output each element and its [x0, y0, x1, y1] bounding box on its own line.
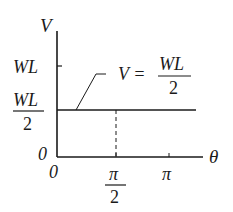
- annotation-lhs: V =: [118, 64, 145, 84]
- y-tick-label-half-den: 2: [23, 114, 32, 134]
- y-axis-label: V: [40, 15, 54, 36]
- x-axis-label: θ: [209, 146, 218, 167]
- y-zero-label: 0: [38, 144, 47, 164]
- annotation-den: 2: [169, 78, 178, 98]
- y-tick-label-half-num: WL: [13, 90, 38, 110]
- chart-canvas: V θ WL WL 2 0 0 π 2 π V = WL 2: [0, 0, 233, 212]
- x-tick-label-half-pi-num: π: [109, 164, 119, 184]
- annotation-leader: [76, 74, 106, 110]
- annotation-num: WL: [159, 54, 184, 74]
- x-tick-label-half-pi-den: 2: [110, 187, 119, 207]
- x-tick-label-pi: π: [162, 164, 172, 184]
- x-zero-label: 0: [49, 162, 58, 182]
- y-tick-label-wl: WL: [13, 57, 38, 77]
